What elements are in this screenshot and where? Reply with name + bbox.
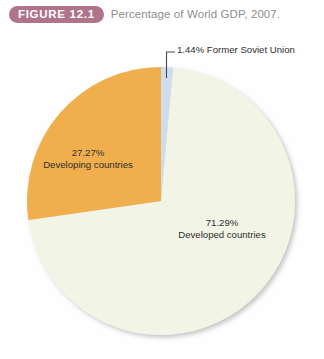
slice-percent-developing: 27.27% <box>18 147 158 159</box>
figure-container: FIGURE 12.1 Percentage of World GDP, 200… <box>0 0 324 359</box>
callout-label-former-soviet-union: 1.44% Former Soviet Union <box>177 44 295 55</box>
slice-label-developing-countries: 27.27% Developing countries <box>18 147 158 172</box>
pie-slices-group <box>27 67 295 335</box>
slice-percent-developed: 71.29% <box>152 217 292 229</box>
slice-name-developing: Developing countries <box>18 159 158 171</box>
slice-name-developed: Developed countries <box>152 229 292 241</box>
slice-label-developed-countries: 71.29% Developed countries <box>152 217 292 242</box>
pie-slice-developing-countries <box>27 67 161 220</box>
